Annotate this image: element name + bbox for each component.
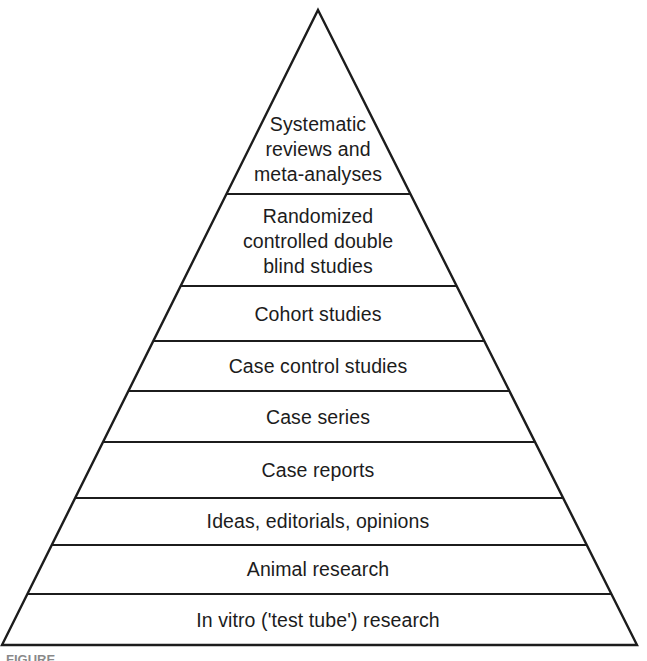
figure-caption: FIGURE [6, 652, 647, 661]
pyramid-diagram [0, 0, 647, 661]
pyramid-triangle [2, 10, 637, 645]
pyramid-outline [2, 10, 637, 645]
evidence-pyramid-figure: Systematic reviews and meta-analysesRand… [0, 0, 647, 661]
figure-caption-prefix: FIGURE [6, 652, 55, 661]
